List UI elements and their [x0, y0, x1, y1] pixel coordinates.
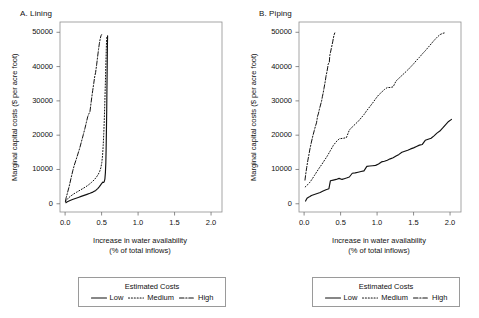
legend-entry-label: High	[432, 294, 447, 302]
y-tick-label: 10000	[239, 164, 292, 173]
x-tick-label: 1.0	[124, 218, 152, 227]
panel-lining: A. Lining Marginal capital costs ($ per …	[0, 0, 240, 260]
dashdot-line-swatch	[413, 295, 429, 301]
dashdot-line-swatch	[179, 295, 195, 301]
x-tick-label: 0.0	[51, 218, 79, 227]
legend-panel-b: Estimated Costs LowMediumHigh	[312, 277, 460, 307]
y-tick-label: 20000	[239, 130, 292, 139]
legend-entry-label: Medium	[381, 294, 408, 302]
y-tick-label: 10000	[0, 164, 53, 173]
legend-entry-label: Low	[344, 294, 358, 302]
dotted-line-swatch	[362, 295, 378, 301]
y-tick-label: 40000	[0, 62, 53, 71]
legend-entry-low[interactable]: Low	[325, 294, 358, 302]
x-tick-label: 0.5	[327, 218, 355, 227]
series-line-high	[65, 35, 101, 201]
solid-line-swatch	[91, 295, 107, 301]
legend-entry-high[interactable]: High	[179, 294, 213, 302]
x-tick-label: 2.0	[436, 218, 464, 227]
y-tick-label: 50000	[239, 27, 292, 36]
x-tick-label: 1.0	[363, 218, 391, 227]
legend-entry-label: Medium	[147, 294, 174, 302]
panel-a-x-axis-label: Increase in water availability	[40, 236, 240, 245]
y-tick-label: 40000	[239, 62, 292, 71]
x-tick-label: 1.5	[161, 218, 189, 227]
series-line-low	[306, 119, 452, 201]
x-tick-label: 2.0	[197, 218, 225, 227]
series-line-medium	[305, 33, 445, 187]
legend-entry-medium[interactable]: Medium	[362, 294, 408, 302]
legend-a-entries: LowMediumHigh	[79, 294, 225, 302]
x-tick-label: 0.0	[290, 218, 318, 227]
y-tick-label: 0	[0, 199, 53, 208]
series-line-high	[305, 33, 335, 180]
solid-line-swatch	[325, 295, 341, 301]
panel-b-x-axis-label: Increase in water availability	[279, 236, 479, 245]
legend-a-title: Estimated Costs	[79, 282, 225, 291]
y-tick-label: 0	[239, 199, 292, 208]
y-tick-label: 50000	[0, 27, 53, 36]
dotted-line-swatch	[128, 295, 144, 301]
x-tick-label: 0.5	[88, 218, 116, 227]
y-tick-label: 20000	[0, 130, 53, 139]
legend-entry-medium[interactable]: Medium	[128, 294, 174, 302]
legend-panel-a: Estimated Costs LowMediumHigh	[78, 277, 226, 307]
legend-b-title: Estimated Costs	[313, 282, 459, 291]
panel-b-x-axis-label-line2: (% of total inflows)	[279, 246, 479, 255]
panel-a-x-axis-label-line2: (% of total inflows)	[40, 246, 240, 255]
figure-root: A. Lining Marginal capital costs ($ per …	[0, 0, 479, 318]
legend-entry-high[interactable]: High	[413, 294, 447, 302]
legend-b-entries: LowMediumHigh	[313, 294, 459, 302]
y-tick-label: 30000	[239, 96, 292, 105]
legend-entry-low[interactable]: Low	[91, 294, 124, 302]
panel-piping: B. Piping Marginal capital costs ($ per …	[239, 0, 479, 260]
x-tick-label: 1.5	[400, 218, 428, 227]
legend-entry-label: Low	[110, 294, 124, 302]
y-tick-label: 30000	[0, 96, 53, 105]
legend-entry-label: High	[198, 294, 213, 302]
